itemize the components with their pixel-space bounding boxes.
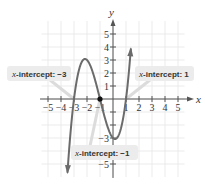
polynomial-graph: x y −5−4−3−2−11234554321−3−5 x-intercept…: [0, 0, 205, 189]
y-tick-label: −5: [98, 159, 109, 170]
callout-right: x-intercept: 1: [135, 66, 194, 81]
x-tick-label: −5: [43, 102, 54, 113]
y-tick-label: 1: [104, 81, 109, 92]
callout-bottom: x-intercept: −1: [71, 145, 138, 160]
callout-bottom-label: -intercept: −1: [79, 149, 130, 158]
point-x-intercept-neg1: [97, 96, 102, 101]
pointer-left: [50, 80, 74, 99]
callout-left-label: -intercept: −3: [16, 70, 67, 79]
y-tick-label: 4: [104, 42, 109, 53]
y-axis-arrow-icon: [111, 19, 116, 26]
x-tick-label: −2: [82, 102, 93, 113]
y-tick-label: 2: [104, 68, 109, 79]
x-tick-label: 5: [176, 102, 181, 113]
y-tick-label: 5: [104, 29, 109, 40]
callout-right-label: -intercept: 1: [143, 70, 189, 79]
pointer-right: [126, 80, 150, 99]
x-axis-label: x: [195, 93, 201, 105]
x-tick-label: −4: [56, 102, 67, 113]
x-tick-label: 3: [150, 102, 155, 113]
x-tick-label: 2: [137, 102, 142, 113]
x-tick-label: 4: [163, 102, 168, 113]
x-axis-arrow-icon: [187, 97, 194, 102]
y-tick-label: 3: [104, 55, 109, 66]
callout-left: x-intercept: −3: [7, 66, 71, 81]
callout-right-text: x-intercept: 1: [138, 69, 189, 79]
y-axis-label: y: [108, 6, 114, 18]
y-tick-label: −3: [98, 133, 109, 144]
callout-left-text: x-intercept: −3: [11, 69, 67, 79]
callout-bottom-text: x-intercept: −1: [74, 148, 130, 158]
